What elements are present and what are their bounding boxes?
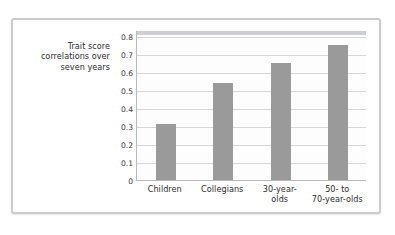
x-axis-label-50-to-70-year-olds: 50- to70-year-olds — [303, 184, 373, 204]
bar-30-year-olds — [271, 63, 291, 180]
y-axis-tick-0.3: 0.3 — [113, 123, 133, 132]
x-axis-label-line: 50- to — [303, 184, 373, 194]
x-axis-category-labels: ChildrenCollegians30-year-olds50- to70-y… — [136, 184, 366, 220]
bar-slot — [195, 31, 253, 180]
y-axis-tick-0.7: 0.7 — [113, 51, 133, 60]
bar-slot — [310, 31, 368, 180]
bar-50-to-70-year-olds — [328, 45, 348, 180]
bar-children — [156, 124, 176, 180]
y-axis-tick-0.8: 0.8 — [113, 33, 133, 42]
y-axis-description-line-2: correlations over — [24, 51, 110, 61]
bar-series — [137, 31, 366, 180]
plot-area — [136, 31, 366, 181]
y-axis-tick-0.1: 0.1 — [113, 159, 133, 168]
y-axis-description-line-3: seven years — [24, 62, 110, 72]
plot-wrapper: 00.10.20.30.40.50.60.70.8 — [113, 31, 366, 181]
y-axis-description-label: Trait score correlations over seven year… — [24, 41, 110, 72]
x-axis-baseline — [137, 180, 366, 181]
y-axis-description-line-1: Trait score — [24, 41, 110, 51]
y-axis-tick-0.5: 0.5 — [113, 87, 133, 96]
bar-slot — [252, 31, 310, 180]
bar-chart-figure: Trait score correlations over seven year… — [0, 0, 395, 235]
y-axis-tick-0.2: 0.2 — [113, 141, 133, 150]
y-axis-tick-0.6: 0.6 — [113, 69, 133, 78]
x-axis-label-line: 70-year-olds — [303, 194, 373, 204]
bar-slot — [137, 31, 195, 180]
bar-collegians — [213, 83, 233, 180]
y-axis-tick-labels: 00.10.20.30.40.50.60.70.8 — [113, 31, 133, 181]
y-axis-tick-0.4: 0.4 — [113, 105, 133, 114]
